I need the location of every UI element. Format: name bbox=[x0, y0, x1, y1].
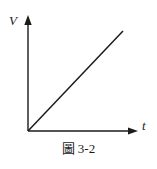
data-line-series-1 bbox=[28, 31, 123, 131]
x-axis-arrowhead-icon bbox=[128, 127, 138, 134]
figure-caption: 圖3-2 bbox=[0, 141, 157, 157]
figure-caption-number: 3-2 bbox=[78, 141, 95, 156]
y-axis-label: V bbox=[9, 14, 17, 27]
y-axis-arrowhead-icon bbox=[24, 15, 31, 25]
figure-caption-tag: 圖 bbox=[62, 141, 75, 156]
x-axis-label: t bbox=[142, 119, 146, 132]
figure-container: V t 圖3-2 bbox=[0, 0, 157, 169]
